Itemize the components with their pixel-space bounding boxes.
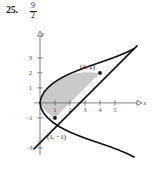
y-ticklabel-neg1: -1	[28, 115, 33, 121]
x-axis-arrowhead	[137, 100, 142, 105]
annotation-intersection-lower: (1, −1)	[47, 133, 67, 141]
y-axis-label: y	[41, 31, 45, 37]
x-axis-label: x	[143, 100, 147, 106]
x-ticklabel-1: 1	[54, 107, 57, 113]
intersection-dot-lower	[53, 116, 57, 120]
y-ticklabel-neg3: -3	[28, 145, 33, 151]
figure-root: 25. 9 2 1	[0, 0, 152, 171]
x-ticklabel-4: 4	[99, 107, 102, 113]
annotation-intersection-upper: (4, 2)	[80, 63, 96, 71]
y-ticklabel-3: 3	[29, 55, 32, 61]
intersection-dot-upper	[98, 71, 102, 75]
y-ticklabel-1: 1	[29, 85, 32, 91]
coordinate-plot: 1 2 3 4 5 3 2 1 -1 -3 y x (4, 2) (1, −1)	[0, 0, 152, 171]
x-ticklabel-5: 5	[114, 107, 117, 113]
x-ticklabel-2: 2	[69, 107, 72, 113]
y-ticklabel-2: 2	[29, 70, 32, 76]
x-ticklabel-3: 3	[84, 107, 87, 113]
